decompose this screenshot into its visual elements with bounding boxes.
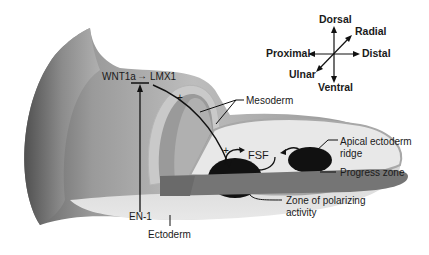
label-wnt1a: WNT1a: [102, 71, 136, 82]
arrow-glyph: →: [137, 70, 147, 81]
plus-sign-1: +: [177, 92, 183, 103]
limb-bud-illustration: [0, 0, 429, 255]
label-lmx1: LMX1: [150, 71, 176, 82]
band-front-shadow: [160, 176, 195, 196]
label-ulnar: Ulnar: [289, 69, 316, 80]
label-aer-line1: Apical ectoderm: [340, 136, 412, 147]
label-zpa-line1: Zone of polarizing: [286, 195, 366, 206]
label-mesoderm: Mesoderm: [246, 95, 293, 106]
plus-sign-2: +: [223, 145, 229, 156]
label-distal: Distal: [362, 48, 391, 59]
label-aer-line2: ridge: [340, 148, 362, 159]
limb-bud-diagram: Dorsal Radial Proximal Distal Ulnar Vent…: [0, 0, 429, 255]
label-progress-zone: Progress zone: [340, 167, 404, 178]
label-ventral: Ventral: [318, 82, 353, 93]
label-proximal: Proximal: [266, 48, 310, 59]
label-en1: EN-1: [129, 211, 152, 222]
label-dorsal: Dorsal: [319, 14, 352, 25]
label-zpa-line2: activity: [286, 207, 317, 218]
label-radial: Radial: [355, 26, 387, 37]
label-ectoderm: Ectoderm: [148, 229, 191, 240]
label-fsf: FSF: [248, 150, 269, 161]
aer-zone: [288, 147, 332, 173]
